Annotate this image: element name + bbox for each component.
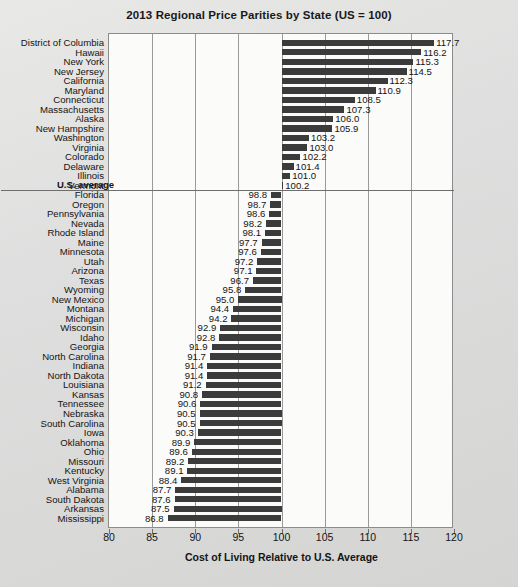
x-tick-label-110: 110: [359, 531, 376, 543]
bar: [168, 515, 282, 521]
table-row: Rhode Island98.1: [109, 229, 452, 238]
x-axis-label: Cost of Living Relative to U.S. Average: [109, 551, 454, 563]
table-row: Kansas90.8: [109, 390, 452, 399]
table-row: Nebraska90.5: [109, 409, 452, 418]
table-row: Vermont100.2: [109, 181, 452, 190]
table-row: Utah97.2: [109, 257, 452, 266]
x-tick-label-95: 95: [233, 531, 245, 543]
bar: [245, 287, 281, 293]
table-row: North Carolina91.7: [109, 352, 452, 361]
bar: [175, 487, 281, 493]
bar: [271, 192, 281, 198]
bar: [253, 277, 281, 283]
x-tick-label-105: 105: [316, 531, 334, 543]
table-row: Louisiana91.2: [109, 381, 452, 390]
table-row: Mississippi86.8: [109, 514, 452, 523]
table-row: Indiana91.4: [109, 362, 452, 371]
table-row: South Carolina90.5: [109, 419, 452, 428]
bar: [282, 68, 407, 74]
table-row: Virginia103.0: [109, 143, 452, 152]
bar: [282, 125, 333, 131]
bar: [200, 410, 282, 416]
bar: [207, 372, 281, 378]
table-row: Pennsylvania98.6: [109, 210, 452, 219]
table-row: Texas96.7: [109, 276, 452, 285]
x-tick-label-90: 90: [189, 531, 201, 543]
bar: [262, 239, 282, 245]
us-average-line: [1, 190, 454, 191]
bar: [200, 420, 282, 426]
bar-value-label: 105.9: [334, 123, 358, 134]
table-row: Wisconsin92.9: [109, 324, 452, 333]
bar: [282, 154, 301, 160]
bar: [233, 306, 281, 312]
bar: [220, 325, 281, 331]
table-row: Montana94.4: [109, 305, 452, 314]
table-row: Delaware101.4: [109, 162, 452, 171]
table-row: Illinois101.0: [109, 172, 452, 181]
bar: [261, 249, 282, 255]
bar: [206, 382, 282, 388]
bar: [188, 458, 281, 464]
bar-value-label: 100.2: [285, 180, 309, 191]
table-row: Ohio89.6: [109, 447, 452, 456]
table-row: Maine97.7: [109, 238, 452, 247]
x-tick-label-120: 120: [445, 531, 463, 543]
table-row: Oregon98.7: [109, 200, 452, 209]
plot-area: District of Columbia117.7Hawaii116.2New …: [108, 33, 453, 528]
table-row: New Hampshire105.9: [109, 124, 452, 133]
bar: [200, 401, 281, 407]
bar: [282, 87, 376, 93]
bar: [210, 353, 282, 359]
bar: [238, 296, 281, 302]
table-row: Missouri89.2: [109, 457, 452, 466]
bar: [202, 391, 281, 397]
bar: [282, 182, 284, 188]
bar: [282, 173, 291, 179]
bar-value-label: 86.8: [145, 513, 164, 524]
bar: [265, 230, 281, 236]
table-row: Maryland110.9: [109, 86, 452, 95]
x-tick-label-80: 80: [103, 531, 115, 543]
table-row: Massachusetts107.3: [109, 105, 452, 114]
bar: [282, 163, 294, 169]
bar: [266, 220, 282, 226]
bar: [187, 468, 281, 474]
bar: [282, 49, 422, 55]
bar: [198, 429, 282, 435]
x-tick-label-85: 85: [146, 531, 158, 543]
bar: [269, 211, 281, 217]
x-tick-label-100: 100: [273, 531, 291, 543]
table-row: Idaho92.8: [109, 333, 452, 342]
table-row: Iowa90.3: [109, 428, 452, 437]
bar: [282, 106, 345, 112]
table-row: Connecticut108.5: [109, 96, 452, 105]
table-row: New York115.3: [109, 58, 452, 67]
table-row: Oklahoma89.9: [109, 438, 452, 447]
bar: [282, 116, 334, 122]
bar: [207, 363, 281, 369]
table-row: Wyoming95.8: [109, 286, 452, 295]
bar: [231, 315, 281, 321]
table-row: Georgia91.9: [109, 343, 452, 352]
chart-figure: 2013 Regional Price Parities by State (U…: [0, 0, 518, 587]
table-row: Arizona97.1: [109, 267, 452, 276]
category-label: Mississippi: [58, 513, 104, 524]
table-row: Colorado102.2: [109, 153, 452, 162]
bar: [282, 59, 414, 65]
table-row: New Mexico95.0: [109, 295, 452, 304]
bar: [175, 496, 282, 502]
bar: [194, 439, 281, 445]
bar: [282, 97, 355, 103]
table-row: Minnesota97.6: [109, 248, 452, 257]
bar: [256, 268, 281, 274]
bar: [282, 78, 388, 84]
bar: [257, 258, 281, 264]
bar: [282, 135, 310, 141]
table-row: Alaska106.0: [109, 115, 452, 124]
bar: [212, 344, 282, 350]
bar: [219, 334, 281, 340]
table-row: Hawaii116.2: [109, 48, 452, 57]
table-row: Washington103.2: [109, 134, 452, 143]
us-average-label: U.S. average: [57, 179, 114, 190]
